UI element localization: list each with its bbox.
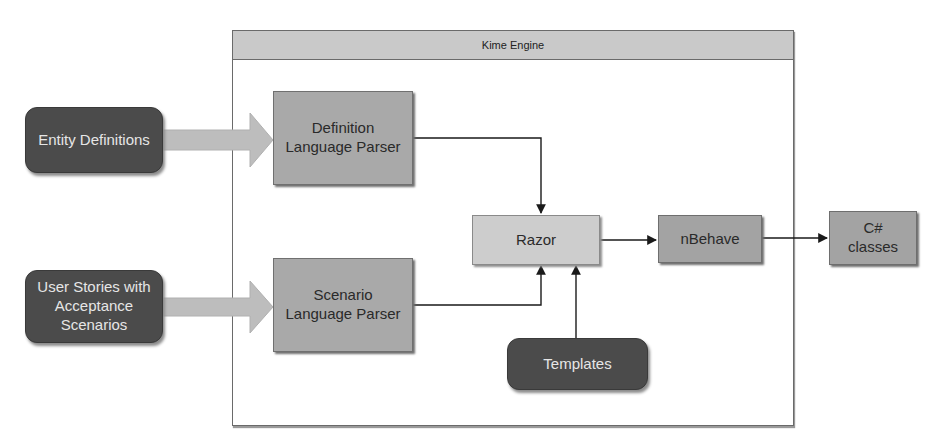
entity-definitions-node: Entity Definitions (25, 107, 163, 173)
entity-definitions-label: Entity Definitions (38, 131, 150, 150)
csharp-classes-label: C# classes (848, 219, 898, 257)
definition-parser-label: Definition Language Parser (284, 119, 402, 157)
templates-node: Templates (507, 338, 648, 390)
user-stories-node: User Stories with Acceptance Scenarios (25, 270, 163, 343)
nbehave-node: nBehave (658, 215, 762, 263)
templates-label: Templates (543, 355, 611, 374)
razor-node: Razor (472, 215, 600, 265)
user-stories-label: User Stories with Acceptance Scenarios (34, 278, 154, 334)
definition-parser-node: Definition Language Parser (273, 91, 413, 185)
csharp-classes-node: C# classes (829, 211, 917, 265)
razor-label: Razor (516, 231, 556, 250)
kime-engine-header: Kime Engine (232, 30, 794, 60)
kime-engine-title: Kime Engine (482, 39, 544, 51)
scenario-parser-label: Scenario Language Parser (284, 286, 402, 324)
nbehave-label: nBehave (680, 230, 739, 249)
scenario-parser-node: Scenario Language Parser (273, 258, 413, 352)
